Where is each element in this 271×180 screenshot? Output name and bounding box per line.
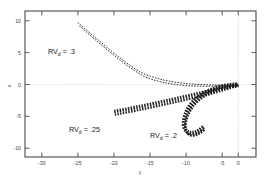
x-tick-label-0: -30 [38, 160, 46, 166]
annotation-rvd-025: RVd = .25 [69, 125, 100, 135]
y-tick-label-4: -10 [14, 145, 22, 151]
y-tick-label-3: -5 [16, 113, 21, 119]
annotation-rvd-03: RVd = .3 [48, 47, 75, 57]
x-tick-label-3: -15 [146, 160, 154, 166]
y-tick-label-1: 5 [18, 50, 21, 56]
x-tick-label-1: -25 [74, 160, 82, 166]
figure-background [0, 0, 271, 180]
annotation-rvd-02: RVd = .2 [150, 131, 177, 141]
y-axis-title: x [6, 84, 12, 87]
x-tick-label-2: -20 [110, 160, 118, 166]
plot-figure: -30 -25 -20 -15 -10 -5 0 10 5 0 -5 -10 y… [0, 0, 271, 180]
x-tick-label-6: 0 [237, 160, 240, 166]
x-axis-title: y [139, 169, 142, 175]
y-tick-label-2: 0 [18, 82, 21, 88]
x-tick-label-4: -10 [182, 160, 190, 166]
y-tick-label-0: 10 [15, 18, 21, 24]
x-tick-label-5: -5 [220, 160, 225, 166]
chart-canvas: -30 -25 -20 -15 -10 -5 0 10 5 0 -5 -10 y… [0, 0, 271, 180]
